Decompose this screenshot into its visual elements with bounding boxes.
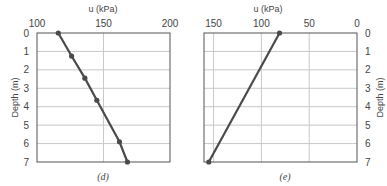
x-tick-label: 100 [253,18,270,29]
y-tick-label: 2 [23,64,29,75]
data-point [56,30,61,35]
x-tick-label: 100 [29,18,46,29]
data-point [125,159,130,164]
y-tick-label: 4 [365,101,371,112]
x-tick-label: 200 [162,18,179,29]
chart-canvas: 01234567100150200u (kPa)Depth (m)(d) 012… [0,0,387,186]
figure-caption: (d) [97,171,109,183]
y-tick-label: 0 [365,28,371,39]
x-axis-title: u (kPa) [88,4,117,14]
x-tick-label: 150 [205,18,222,29]
y-tick-label: 3 [365,83,371,94]
y-tick-label: 6 [23,138,29,149]
y-tick-label: 1 [365,46,371,57]
y-tick-label: 7 [23,157,29,168]
y-axis-title: Depth (m) [375,77,385,117]
plot-frame [204,33,357,162]
data-point [69,53,74,58]
x-axis-title: u (kPa) [253,4,282,14]
data-point [206,159,211,164]
data-line [209,33,280,162]
figure-caption: (e) [279,171,291,183]
y-tick-label: 5 [23,120,29,131]
chart-d: 01234567100150200u (kPa)Depth (m)(d) [10,4,179,183]
x-tick-label: 150 [95,18,112,29]
data-point [94,98,99,103]
y-tick-label: 3 [23,83,29,94]
y-tick-label: 4 [23,101,29,112]
data-point [117,139,122,144]
y-tick-label: 1 [23,46,29,57]
y-tick-label: 2 [365,64,371,75]
x-tick-label: 50 [304,18,316,29]
chart-e: 01234567150100500u (kPa)Depth (m)(e) [204,4,385,183]
y-tick-label: 7 [365,157,371,168]
data-point [277,30,282,35]
y-axis-title: Depth (m) [10,77,20,117]
y-tick-label: 6 [365,138,371,149]
y-tick-label: 0 [23,28,29,39]
x-tick-label: 0 [354,18,360,29]
y-tick-label: 5 [365,120,371,131]
data-point [82,76,87,81]
